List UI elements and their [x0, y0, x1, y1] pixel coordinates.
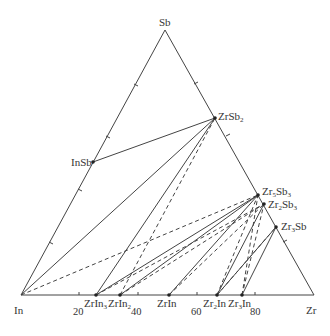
phase-label-zr3sb: Zr3Sb [281, 221, 307, 234]
ternary-diagram [0, 0, 330, 336]
phase-label-zrin3: ZrIn3 [84, 298, 107, 311]
phase-label-zrin: ZrIn [157, 298, 177, 309]
phase-label-zr3in: Zr3In [228, 298, 251, 311]
vertex-label-zr: Zr [306, 305, 316, 316]
dashed-tie-lines [21, 118, 276, 295]
phase-label-zrin2: ZrIn2 [108, 298, 131, 311]
phase-label-insb: InSb [71, 157, 92, 168]
axis-tick-60: 60 [191, 307, 202, 318]
phase-label-zrsb2: ZrSb2 [218, 111, 244, 124]
axis-tick-40: 40 [131, 307, 142, 318]
phase-points [91, 116, 278, 297]
phase-label-zr2in: Zr2In [203, 298, 226, 311]
axis-tick-20: 20 [73, 307, 84, 318]
vertex-label-sb: Sb [159, 17, 171, 28]
axis-tick-80: 80 [250, 307, 261, 318]
phase-label-zr2sb3: Zr2Sb3 [268, 199, 297, 212]
solid-tie-lines [21, 118, 276, 295]
vertex-label-in: In [14, 305, 23, 316]
